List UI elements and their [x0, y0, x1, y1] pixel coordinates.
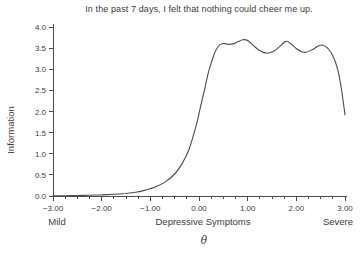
x-axis-symbol-theta: θ — [201, 234, 207, 246]
x-tick-label: −2.00 — [92, 204, 113, 213]
x-tick-label: −3.00 — [43, 204, 64, 213]
x-tick-label: 2.00 — [289, 204, 305, 213]
x-tick-label: 3.00 — [337, 204, 353, 213]
y-tick-label: 3.5 — [35, 44, 47, 53]
x-tick-label: 1.00 — [240, 204, 256, 213]
figure: In the past 7 days, I felt that nothing … — [0, 0, 360, 256]
y-tick-label: 0.5 — [35, 171, 47, 180]
x-region-label-mild: Mild — [48, 216, 65, 227]
y-tick-label: 1.0 — [35, 150, 47, 159]
y-tick-label: 2.5 — [35, 86, 47, 95]
x-tick-label: −1.00 — [140, 204, 161, 213]
x-tick-label: 0.00 — [191, 204, 207, 213]
y-tick-label: 2.0 — [35, 108, 47, 117]
x-region-label-depressive-symptoms: Depressive Symptoms — [155, 216, 250, 227]
information-curve — [53, 40, 345, 196]
y-tick-label: 4.0 — [35, 23, 47, 32]
y-tick-label: 0.0 — [35, 192, 47, 201]
y-tick-label: 3.0 — [35, 65, 47, 74]
x-region-label-severe: Severe — [323, 216, 353, 227]
y-tick-label: 1.5 — [35, 129, 47, 138]
